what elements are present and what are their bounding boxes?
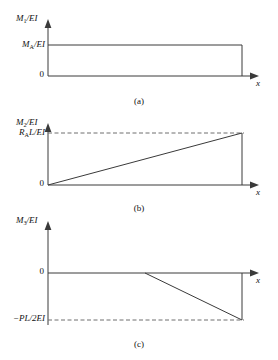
panel-c-caption: (c): [0, 339, 278, 349]
panel-c-tick-label-pl2ei: −PL/2EI: [0, 314, 45, 323]
panel-b-y-axis-arrowhead: [45, 123, 52, 132]
panel-c-x-axis-label: x: [256, 276, 260, 285]
panel-c-y-axis-arrowhead: [45, 221, 52, 230]
panel-a-zero-label: 0: [0, 70, 44, 79]
panel-b-x-axis-label: x: [256, 188, 260, 197]
panel-a-x-axis-label: x: [256, 79, 260, 88]
panel-a-tick-label-ma: MA/EI: [0, 40, 45, 49]
panel-a-y-axis-label: M1/EI: [16, 14, 38, 23]
moment-ei-diagram-figure: M1/EI MA/EI 0 x (a) M2/EI RAL/EI: [0, 0, 278, 360]
panel-b-y-axis-label: M2/EI: [16, 118, 38, 127]
panel-c-y-axis-label: M3/EI: [16, 216, 38, 225]
panel-a-y-axis-arrowhead: [45, 19, 52, 28]
panel-c: M3/EI 0 −PL/2EI x (c): [0, 215, 278, 360]
panel-b: M2/EI RAL/EI 0 x (b): [0, 105, 278, 220]
panel-c-ramp-line: [145, 273, 242, 320]
panel-b-caption: (b): [0, 203, 278, 213]
panel-b-ramp-line: [48, 133, 242, 185]
panel-a: M1/EI MA/EI 0 x (a): [0, 0, 278, 118]
panel-c-zero-label: 0: [0, 267, 44, 276]
panel-b-tick-label-ral: RAL/EI: [0, 128, 45, 137]
panel-b-zero-label: 0: [0, 179, 44, 188]
